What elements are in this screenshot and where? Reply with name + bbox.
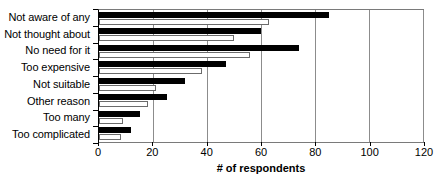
bar-group bbox=[99, 109, 423, 126]
gridline bbox=[423, 10, 424, 142]
category-label: No need for it bbox=[0, 43, 93, 60]
category-label: Other reason bbox=[0, 93, 93, 110]
bar bbox=[99, 118, 123, 124]
bar bbox=[99, 35, 234, 41]
value-axis-tick bbox=[207, 142, 208, 146]
value-axis-tick bbox=[370, 142, 371, 146]
value-axis-label: 100 bbox=[360, 146, 378, 158]
value-axis-label: 40 bbox=[201, 146, 213, 158]
value-axis-label: 20 bbox=[146, 146, 158, 158]
bar-group bbox=[99, 126, 423, 143]
value-axis-tick bbox=[315, 142, 316, 146]
category-label: Not thought about bbox=[0, 26, 93, 43]
bar bbox=[99, 101, 148, 107]
bar bbox=[99, 12, 329, 18]
value-axis-label: 0 bbox=[95, 146, 101, 158]
horizontal-bar-chart: Not aware of any Not thought about No ne… bbox=[0, 0, 439, 189]
bar bbox=[99, 52, 250, 58]
bar bbox=[99, 134, 121, 140]
bar bbox=[99, 85, 156, 91]
plot-area bbox=[98, 9, 424, 143]
value-axis-tick bbox=[98, 142, 99, 146]
category-label: Too expensive bbox=[0, 59, 93, 76]
bar bbox=[99, 61, 226, 67]
bar-group bbox=[99, 60, 423, 77]
value-axis-label: 120 bbox=[415, 146, 433, 158]
value-axis: 020406080100120 bbox=[98, 146, 424, 160]
value-axis-tick bbox=[152, 142, 153, 146]
bar bbox=[99, 94, 167, 100]
category-label: Not suitable bbox=[0, 76, 93, 93]
category-label: Too many bbox=[0, 110, 93, 127]
bar bbox=[99, 45, 299, 51]
bar bbox=[99, 127, 131, 133]
bars-layer bbox=[99, 10, 423, 142]
category-axis: Not aware of any Not thought about No ne… bbox=[0, 9, 93, 143]
bar-group bbox=[99, 10, 423, 27]
category-label: Not aware of any bbox=[0, 9, 93, 26]
bar-group bbox=[99, 43, 423, 60]
value-axis-label: 80 bbox=[309, 146, 321, 158]
bar-group bbox=[99, 93, 423, 110]
value-axis-tick bbox=[261, 142, 262, 146]
bar bbox=[99, 28, 261, 34]
x-axis-title: # of respondents bbox=[98, 162, 424, 175]
category-label: Too complicated bbox=[0, 126, 93, 143]
bar bbox=[99, 78, 185, 84]
value-axis-tick bbox=[424, 142, 425, 146]
bar-group bbox=[99, 27, 423, 44]
bar-group bbox=[99, 76, 423, 93]
bar bbox=[99, 111, 140, 117]
value-axis-label: 60 bbox=[255, 146, 267, 158]
bar bbox=[99, 68, 202, 74]
bar bbox=[99, 19, 269, 25]
